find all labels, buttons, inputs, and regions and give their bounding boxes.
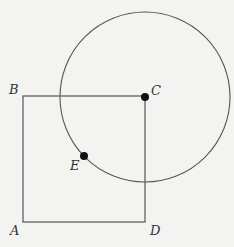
label-e: E [70,159,80,172]
label-c: C [151,84,161,97]
point-c [141,93,149,101]
label-b: B [9,83,19,96]
geometry-diagram: B C E A D [0,0,234,247]
label-d: D [150,224,160,237]
diagram-canvas [0,0,234,247]
point-e [80,152,88,160]
label-a: A [10,224,19,237]
